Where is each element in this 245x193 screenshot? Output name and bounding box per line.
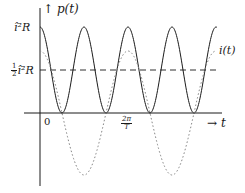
y-tick-half: 1 2 î²R <box>11 63 34 78</box>
y-axis-label: ↑ p(t) <box>43 3 79 15</box>
up-arrow-icon: ↑ <box>43 2 53 16</box>
half-rest: î²R <box>17 64 33 77</box>
current-curve-label: i(t) <box>219 45 236 56</box>
y-axis-label-text: p(t) <box>57 2 79 16</box>
x-axis-label: → t <box>207 117 226 129</box>
power-waveform-plot <box>0 0 245 193</box>
x-axis-label-text: t <box>221 116 226 130</box>
period-denominator: T <box>121 124 132 131</box>
right-arrow-icon: → <box>207 116 217 130</box>
period-fraction: 2π T <box>121 116 132 131</box>
y-tick-peak: î²R <box>14 22 30 33</box>
x-tick-period: 2π T <box>121 116 132 131</box>
origin-label: 0 <box>44 117 50 127</box>
